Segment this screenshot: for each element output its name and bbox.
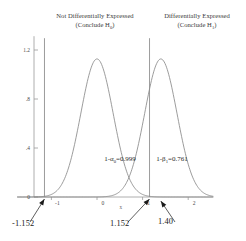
- x-tick-label-2: 1: [142, 200, 156, 206]
- beta-annotation-pre: 1-β: [156, 155, 165, 163]
- y-tick-label-1: .4: [16, 145, 30, 151]
- figure-root: Not Differentially Expressed (Conclude H…: [0, 0, 246, 241]
- y-tick-label-0: 0: [16, 194, 30, 200]
- callout-upper-critical-label: 1.152: [110, 219, 129, 228]
- alpha-annotation-pre: 1-α: [104, 155, 114, 163]
- beta-annotation-sub: 1: [166, 159, 168, 164]
- alpha-annotation-post: =0.999: [116, 155, 136, 163]
- axes: [34, 36, 213, 197]
- callout-lower-critical-label: -1.152: [12, 219, 34, 228]
- x-axis-title: x: [115, 204, 127, 210]
- x-tick-label-3: 2: [187, 200, 201, 206]
- beta-annotation: 1-β1=0.761: [156, 155, 187, 163]
- y-tick-label-3: 1.2: [16, 47, 30, 53]
- x-axis-ticks: [51, 197, 188, 200]
- density-curve-0: [17, 59, 213, 197]
- y-tick-label-2: .8: [16, 96, 30, 102]
- y-axis-ticks: [34, 50, 38, 197]
- density-curve-1: [17, 59, 213, 197]
- x-tick-label-1: 0: [96, 200, 110, 206]
- x-tick-label-0: -1: [50, 200, 64, 206]
- callout-lower-critical-arrowhead: [39, 199, 44, 206]
- callout-alt-mean-arrowhead: [161, 201, 166, 207]
- callout-alt-mean-label: 1.40: [158, 217, 173, 226]
- alpha-annotation: 1-α0=0.999: [104, 155, 136, 163]
- alpha-annotation-sub: 0: [114, 159, 116, 164]
- beta-annotation-post: =0.761: [168, 155, 188, 163]
